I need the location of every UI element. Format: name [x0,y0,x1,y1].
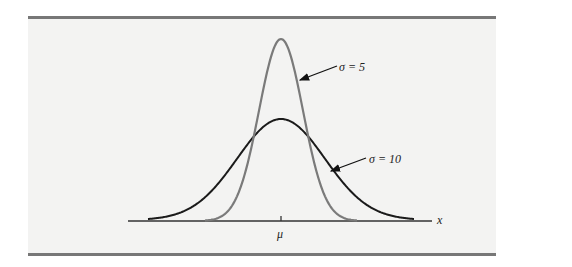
sigma10-arrow [331,158,366,171]
normal-curves-chart: x μ σ = 5 σ = 10 [0,0,572,267]
sigma5-label: σ = 5 [339,60,365,74]
mu-label: μ [276,227,283,241]
sigma5-arrow [300,66,337,80]
sigma5-curve [205,39,357,221]
sigma10-curve [148,119,414,219]
sigma10-label: σ = 10 [369,152,401,166]
x-axis-label: x [436,213,443,227]
